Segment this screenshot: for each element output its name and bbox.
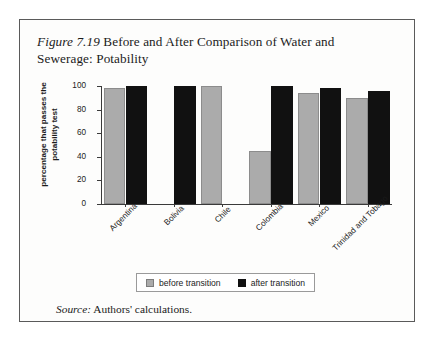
legend-swatch-before-icon — [146, 279, 154, 287]
legend-label-after: after transition — [251, 278, 305, 288]
plot-area: 020406080100 ArgentinaBoliviaChileColomb… — [101, 86, 392, 204]
x-category-label: Argentina — [108, 202, 139, 233]
legend-swatch-after-icon — [238, 279, 246, 287]
y-tick — [97, 86, 101, 87]
y-tick — [97, 204, 101, 205]
legend-item-before: before transition — [146, 278, 221, 288]
x-tick — [174, 204, 175, 207]
chart-area: percentage that passes the potability te… — [20, 76, 416, 266]
figure-title: Figure 7.19 Before and After Comparison … — [37, 34, 385, 67]
source-text: Authors' calculations. — [91, 303, 192, 315]
bar-after — [320, 88, 342, 204]
source-label: Source: — [56, 303, 91, 315]
x-category-label: Colombia — [254, 202, 285, 233]
chart-legend: before transition after transition — [136, 273, 315, 292]
bar-before — [298, 93, 320, 204]
x-category-label: Mexico — [307, 204, 332, 229]
source-note: Source: Authors' calculations. — [56, 303, 192, 315]
y-tick-label: 40 — [46, 152, 86, 161]
y-tick-label: 100 — [46, 81, 86, 90]
y-tick — [97, 180, 101, 181]
y-tick-label: 0 — [46, 199, 86, 208]
y-axis-line — [101, 86, 102, 204]
y-tick-label: 60 — [46, 128, 86, 137]
bar-before — [346, 98, 368, 204]
x-category-label: Chile — [213, 205, 233, 225]
y-tick-label: 20 — [46, 175, 86, 184]
bar-after — [368, 91, 390, 204]
legend-label-before: before transition — [159, 278, 221, 288]
x-tick — [368, 204, 369, 207]
x-axis-line — [101, 204, 392, 205]
x-tick — [271, 204, 272, 207]
legend-item-after: after transition — [238, 278, 305, 288]
y-tick-label: 80 — [46, 105, 86, 114]
y-tick — [97, 157, 101, 158]
figure-number: Figure 7.19 — [37, 34, 100, 49]
y-tick — [97, 133, 101, 134]
bar-before — [249, 151, 271, 204]
bar-before — [104, 88, 126, 204]
figure-frame: Figure 7.19 Before and After Comparison … — [19, 19, 415, 322]
bar-after — [126, 86, 148, 204]
bar-after — [174, 86, 196, 204]
bar-after — [271, 86, 293, 204]
bar-before — [201, 86, 223, 204]
y-tick — [97, 110, 101, 111]
x-category-label: Bolivia — [162, 204, 185, 227]
